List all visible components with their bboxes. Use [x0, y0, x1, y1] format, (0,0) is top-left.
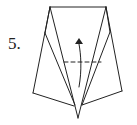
- origami-diagram: [0, 0, 137, 125]
- fold-arrow-head-icon: [75, 38, 83, 44]
- left-flap-edge-inner: [45, 33, 75, 105]
- bottom-left-edge: [33, 93, 74, 106]
- bottom-right-edge: [82, 91, 122, 105]
- fold-arrow-curve: [79, 44, 81, 87]
- right-flap-top: [106, 7, 110, 32]
- right-flap-edge-inner: [82, 32, 110, 105]
- left-flap-top: [45, 7, 50, 33]
